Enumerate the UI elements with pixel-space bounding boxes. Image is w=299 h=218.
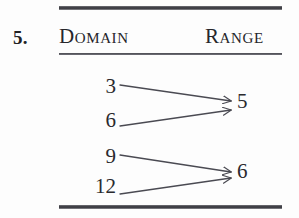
arrow-12-to-6 <box>120 178 231 194</box>
domain-value: 3 <box>86 74 116 99</box>
domain-value: 9 <box>86 144 116 169</box>
arrow-9-to-6 <box>120 155 231 172</box>
domain-value: 12 <box>76 174 116 199</box>
arrow-layer <box>0 0 299 218</box>
range-value: 5 <box>237 89 248 114</box>
arrow-6-to-5 <box>120 110 231 126</box>
range-value: 6 <box>237 159 248 184</box>
exercise-figure: 5. Domain Range 36912 56 <box>0 0 299 218</box>
domain-value: 6 <box>86 108 116 133</box>
arrow-3-to-5 <box>120 85 231 101</box>
